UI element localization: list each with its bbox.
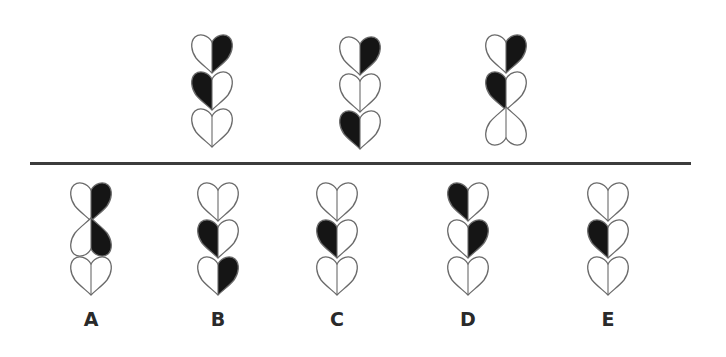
- option-b-heart-1-icon: [196, 180, 240, 222]
- option-e-heart-3-icon: [586, 254, 630, 296]
- figure-2-heart-1-icon: [338, 34, 382, 76]
- option-c-heart-1-icon: [315, 180, 359, 222]
- option-a-heart-2-icon: [69, 217, 113, 259]
- figure-1-heart-2-icon: [190, 69, 234, 111]
- figure-2-heart-3-icon: [338, 108, 382, 150]
- option-a-heart-1-icon: [69, 180, 113, 222]
- option-a-heart-3-icon: [69, 254, 113, 296]
- option-e-heart-2-icon: [586, 217, 630, 259]
- option-d-heart-1-icon: [446, 180, 490, 222]
- option-b-heart-2-icon: [196, 217, 240, 259]
- option-b-heart-3-icon: [196, 254, 240, 296]
- option-label-c[interactable]: C: [322, 308, 352, 330]
- figure-1-heart-1-icon: [190, 32, 234, 74]
- option-label-a[interactable]: A: [76, 308, 106, 330]
- figure-3-heart-3-icon: [484, 106, 528, 148]
- option-c-heart-2-icon: [315, 217, 359, 259]
- option-label-b[interactable]: B: [203, 308, 233, 330]
- option-d-heart-3-icon: [446, 254, 490, 296]
- option-d-heart-2-icon: [446, 217, 490, 259]
- option-label-d[interactable]: D: [453, 308, 483, 330]
- option-e-heart-1-icon: [586, 180, 630, 222]
- figure-3-heart-1-icon: [484, 32, 528, 74]
- option-c-heart-3-icon: [315, 254, 359, 296]
- divider-line: [30, 162, 691, 165]
- option-label-e[interactable]: E: [593, 308, 623, 330]
- figure-2-heart-2-icon: [338, 71, 382, 113]
- figure-3-heart-2-icon: [484, 69, 528, 111]
- figure-1-heart-3-icon: [190, 106, 234, 148]
